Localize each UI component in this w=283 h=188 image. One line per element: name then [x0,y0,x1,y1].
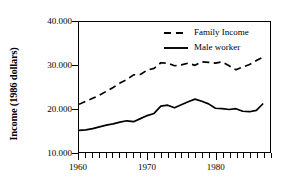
x-tick-mark-1985 [250,153,251,158]
legend-label-male-worker: Male worker [194,43,240,52]
x-tick-mark-1970 [147,153,148,160]
x-tick-mark-1986 [257,153,258,158]
x-tick-mark-1980 [216,153,217,160]
x-tick-mark-1974 [175,153,176,158]
x-tick-mark-1976 [188,153,189,158]
x-tick-mark-1973 [168,153,169,158]
series-line-male-worker [79,99,263,130]
x-tick-mark-1963 [99,153,100,158]
x-tick-label-1960: 1960 [58,162,98,172]
x-axis-tick-marks [0,153,283,161]
x-tick-label-1970: 1970 [127,162,167,172]
x-tick-mark-1966 [119,153,120,158]
dashed-line-icon [163,28,189,38]
x-tick-mark-1988 [271,153,272,158]
x-tick-mark-1982 [230,153,231,158]
x-tick-mark-1969 [140,153,141,158]
x-tick-mark-1960 [78,153,79,160]
x-tick-mark-1967 [126,153,127,158]
x-tick-mark-1987 [264,153,265,158]
y-tick-label-20000: 20.000 [32,105,72,114]
x-axis-tick-labels: 196019701980 [0,162,283,176]
x-tick-mark-1981 [223,153,224,158]
x-tick-mark-1964 [106,153,107,158]
x-tick-mark-1979 [209,153,210,158]
x-tick-mark-1971 [154,153,155,158]
x-tick-mark-1968 [133,153,134,158]
x-tick-mark-1984 [243,153,244,158]
x-tick-mark-1965 [112,153,113,158]
solid-line-icon [163,43,189,53]
legend-label-family-income: Family Income [194,28,249,37]
income-line-chart: Income (1986 dollars) 40.000 30.000 20.0… [0,0,283,188]
x-tick-mark-1972 [161,153,162,158]
x-tick-mark-1983 [237,153,238,158]
x-tick-mark-1978 [202,153,203,158]
x-tick-mark-1961 [85,153,86,158]
chart-legend: Family Income Male worker [163,26,267,56]
y-tick-label-40000: 40.000 [32,17,72,26]
x-tick-mark-1962 [92,153,93,158]
x-tick-mark-1975 [181,153,182,158]
legend-item-male-worker: Male worker [163,41,267,54]
series-line-family-income [79,57,263,104]
x-tick-label-1980: 1980 [196,162,236,172]
legend-item-family-income: Family Income [163,26,267,39]
x-tick-mark-1977 [195,153,196,158]
y-tick-label-30000: 30.000 [32,61,72,70]
